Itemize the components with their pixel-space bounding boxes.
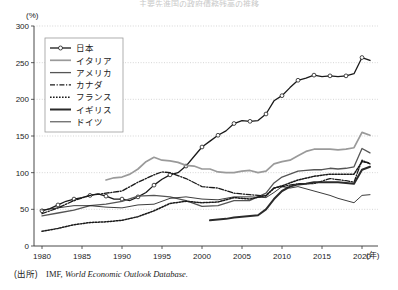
y-tick-label: 200 <box>16 95 30 104</box>
legend-label: カナダ <box>76 80 103 90</box>
legend-label: ドイツ <box>76 117 103 127</box>
y-tick-label: 300 <box>16 22 30 31</box>
figure-title: 主要先進国の政府債務残高の推移 <box>0 0 398 7</box>
chart-legend: 日本イタリアアメリカカナダフランスイギリスドイツ <box>45 38 123 132</box>
source-database: World Economic Outlook Database. <box>65 269 188 279</box>
legend-label: フランス <box>76 92 112 102</box>
x-tick-label: 2005 <box>233 252 251 261</box>
x-axis-ticks: 198019851990199520002005201020152020 <box>33 246 371 261</box>
x-tick-label: 1990 <box>113 252 131 261</box>
legend-label: 日本 <box>76 43 94 53</box>
figure-container: 主要先進国の政府債務残高の推移 (%) 050100150200250300 1… <box>0 0 398 290</box>
x-tick-label: 1980 <box>33 252 51 261</box>
x-tick-label: 1995 <box>153 252 171 261</box>
y-tick-label: 0 <box>25 242 30 251</box>
y-tick-label: 50 <box>20 205 29 214</box>
source-publisher: IMF, <box>46 269 63 279</box>
x-tick-label: 2015 <box>313 252 331 261</box>
source-note: (出所) IMF, World Economic Outlook Databas… <box>14 267 188 279</box>
x-tick-label: 2010 <box>273 252 291 261</box>
x-tick-label: 2000 <box>193 252 211 261</box>
y-tick-label: 100 <box>16 169 30 178</box>
x-axis-unit-label: (年) <box>366 249 379 260</box>
source-label: (出所) <box>14 269 38 279</box>
legend-label: アメリカ <box>76 68 112 78</box>
y-axis-ticks: 050100150200250300 <box>16 22 34 251</box>
x-tick-label: 1985 <box>73 252 91 261</box>
line-chart-plot: 050100150200250300 198019851990199520002… <box>0 0 398 262</box>
y-tick-label: 250 <box>16 59 30 68</box>
y-tick-label: 150 <box>16 132 30 141</box>
legend-label: イタリア <box>76 56 112 66</box>
y-axis-unit-label: (%) <box>26 11 38 20</box>
legend-label: イギリス <box>76 105 112 115</box>
